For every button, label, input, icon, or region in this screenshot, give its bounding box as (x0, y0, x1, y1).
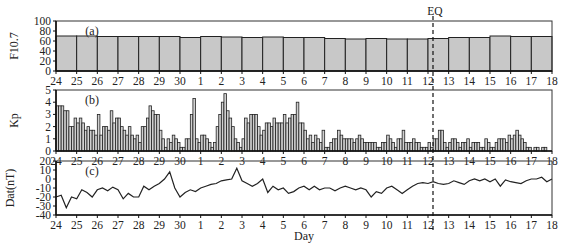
panel-tag: (c) (85, 164, 98, 178)
x-tick-label: 11 (402, 75, 413, 87)
f107-bar (97, 37, 118, 72)
f107-bar (283, 38, 304, 72)
x-tick-label: 9 (363, 219, 369, 231)
x-tick-label: 13 (443, 219, 455, 231)
f107-bar (345, 39, 366, 71)
x-tick-label: 14 (464, 75, 476, 87)
f107-bar (304, 38, 325, 72)
dat-line (56, 168, 552, 208)
x-tick-label: 9 (363, 75, 369, 87)
panel-tag: (b) (85, 93, 99, 107)
x-tick-label: 26 (92, 219, 104, 231)
x-tick-label: 15 (484, 75, 496, 87)
x-tick-label: 25 (71, 75, 83, 87)
x-tick-label: 18 (546, 219, 558, 231)
y-tick-label: 1 (45, 133, 51, 145)
f107-bar (469, 38, 490, 72)
f107-bar (531, 37, 552, 72)
y-axis-label: Dat(nT) (3, 169, 17, 208)
f107-bar (56, 36, 77, 71)
f107-bar (180, 38, 201, 72)
x-tick-label: 16 (505, 75, 517, 87)
x-tick-label: 17 (526, 219, 538, 231)
x-tick-label: 6 (301, 75, 307, 87)
f107-bar (490, 36, 511, 71)
x-tick-label: 29 (154, 219, 166, 231)
y-axis-label: F10.7 (7, 32, 21, 60)
x-tick-label: 13 (443, 75, 455, 87)
x-tick-label: 28 (133, 219, 145, 231)
x-tick-label: 10 (381, 75, 393, 87)
y-tick-label: 5 (45, 84, 51, 96)
x-tick-label: 11 (402, 219, 413, 231)
x-tick-label: 30 (174, 75, 186, 87)
f107-bar (407, 39, 428, 71)
x-tick-label: 8 (342, 75, 348, 87)
f107-bar (242, 38, 263, 72)
x-tick-label: 25 (71, 219, 83, 231)
f107-bar (263, 37, 284, 71)
x-tick-label: 5 (280, 219, 286, 231)
x-tick-label: 12 (422, 75, 434, 87)
x-tick-label: 7 (322, 219, 328, 231)
x-tick-label: 4 (260, 75, 266, 87)
x-tick-label: 24 (50, 75, 62, 87)
x-tick-label: 17 (526, 75, 538, 87)
panel-f107: 0204060801002425262728293012345678910111… (7, 15, 558, 87)
x-tick-label: 15 (484, 219, 496, 231)
f107-bar (428, 39, 449, 72)
y-tick-label: 100 (34, 15, 52, 27)
f107-bar (118, 37, 139, 72)
panel-tag: (a) (85, 24, 98, 38)
x-tick-label: 18 (546, 75, 558, 87)
x-tick-label: 29 (154, 75, 166, 87)
x-tick-label: 8 (342, 219, 348, 231)
f107-bar (77, 36, 98, 71)
x-tick-label: 1 (198, 75, 204, 87)
x-tick-label: 7 (322, 75, 328, 87)
x-tick-label: 28 (133, 75, 145, 87)
eq-label: EQ (427, 5, 443, 17)
x-tick-label: 26 (92, 75, 104, 87)
x-tick-label: 30 (174, 219, 186, 231)
f107-bar (511, 37, 532, 72)
x-tick-label: 3 (239, 219, 245, 231)
x-tick-label: 27 (112, 75, 124, 87)
f107-bar (387, 39, 408, 71)
x-tick-label: 2 (218, 75, 224, 87)
y-tick-label: 20 (40, 155, 52, 167)
plot-frame (56, 161, 552, 215)
y-axis-label: Kp (7, 113, 21, 128)
x-tick-label: 5 (280, 75, 286, 87)
f107-bar (366, 39, 387, 72)
y-tick-label: 4 (45, 96, 51, 108)
x-tick-label: 16 (505, 219, 517, 231)
figure: 0204060801002425262728293012345678910111… (0, 0, 568, 247)
x-tick-label: 4 (260, 219, 266, 231)
x-tick-label: 1 (198, 219, 204, 231)
x-tick-label: 3 (239, 75, 245, 87)
f107-bar (221, 37, 242, 71)
y-tick-label: 2 (45, 121, 51, 133)
f107-bar (139, 37, 160, 72)
f107-bar (325, 39, 346, 72)
f107-bar (449, 38, 470, 72)
f107-bar (159, 37, 180, 72)
x-tick-label: 10 (381, 219, 393, 231)
x-tick-label: 27 (112, 219, 124, 231)
x-axis-label: Day (294, 229, 314, 243)
x-tick-label: 24 (50, 219, 62, 231)
x-tick-label: 12 (422, 219, 434, 231)
x-tick-label: 14 (464, 219, 476, 231)
panel-kp: 0123452425262728293012345678910111213141… (7, 84, 558, 167)
y-tick-label: 3 (45, 108, 51, 120)
x-tick-label: 2 (218, 219, 224, 231)
f107-bar (201, 37, 222, 72)
